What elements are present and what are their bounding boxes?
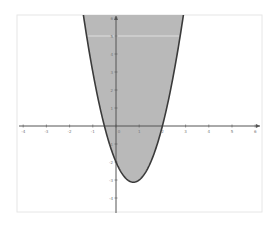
x-tick-label: 4 <box>208 129 211 134</box>
x-tick-label: -1 <box>91 129 95 134</box>
y-tick-label: -4 <box>109 196 113 201</box>
y-tick-label: -1 <box>109 142 113 147</box>
x-tick-label: -4 <box>21 129 25 134</box>
function-graph: -4-3-2-10123456-4-3-2-1123456 <box>0 0 276 225</box>
x-tick-label: 5 <box>231 129 234 134</box>
x-tick-label: -2 <box>68 129 72 134</box>
y-tick-label: -2 <box>109 160 113 165</box>
x-tick-label: 2 <box>161 129 164 134</box>
x-tick-label: 6 <box>254 129 257 134</box>
x-tick-label: 1 <box>138 129 141 134</box>
y-tick-label: -3 <box>109 178 113 183</box>
x-tick-label: -3 <box>44 129 48 134</box>
x-tick-label: 0 <box>118 129 121 134</box>
